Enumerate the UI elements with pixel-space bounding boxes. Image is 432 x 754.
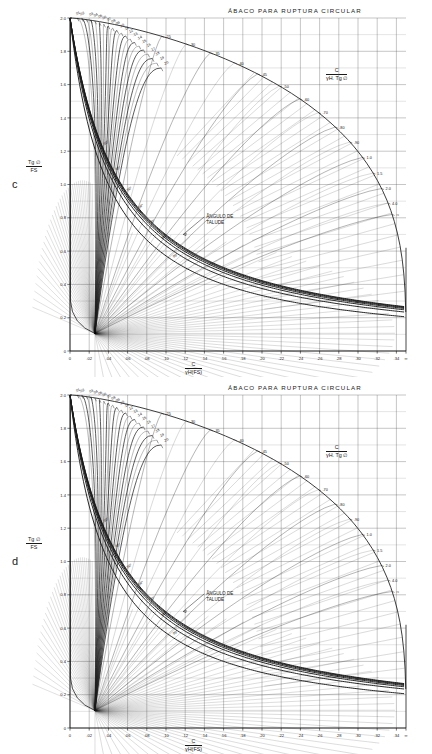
svg-text:0.2: 0.2: [60, 692, 66, 697]
svg-text:.25: .25: [166, 412, 171, 416]
svg-text:0: 0: [64, 726, 67, 731]
svg-text:.14: .14: [202, 733, 208, 738]
svg-text:.32: .32: [374, 733, 380, 738]
svg-text:.10: .10: [163, 356, 169, 361]
svg-text:.80: .80: [339, 126, 344, 130]
svg-text:.25: .25: [166, 35, 171, 39]
svg-text:.02: .02: [79, 11, 85, 17]
svg-text:∞: ∞: [405, 356, 408, 361]
svg-text:.18: .18: [240, 356, 246, 361]
svg-text:.26: .26: [317, 356, 323, 361]
svg-text:0.8: 0.8: [60, 592, 66, 597]
svg-text:.45: .45: [262, 73, 267, 77]
svg-text:1.8: 1.8: [60, 426, 66, 431]
svg-text:2.0: 2.0: [60, 393, 66, 398]
svg-text:.40: .40: [238, 62, 243, 66]
svg-text:1.5: 1.5: [377, 172, 382, 176]
svg-text:TALUDE: TALUDE: [206, 220, 224, 225]
svg-text:.02: .02: [86, 733, 92, 738]
document-page: c ÁBACO PARA RUPTURA CIRCULAR Tg ∅ FS C …: [0, 0, 432, 754]
svg-text:0.2: 0.2: [60, 315, 66, 320]
svg-text:.35: .35: [214, 429, 219, 433]
svg-text:1.0: 1.0: [60, 182, 66, 187]
svg-text:4.0: 4.0: [392, 579, 397, 583]
svg-text:ÂNGULO DE: ÂNGULO DE: [206, 213, 233, 219]
svg-text:.06: .06: [125, 733, 131, 738]
svg-text:.70: .70: [323, 111, 328, 115]
svg-text:.60: .60: [304, 475, 309, 479]
nomograph-svg-d: .01.02.03.04.05.06.07.08.09.10.11.12.13.…: [0, 377, 432, 754]
svg-text:1.4: 1.4: [60, 493, 66, 498]
svg-text:.24: .24: [298, 356, 304, 361]
svg-text:.02: .02: [79, 388, 85, 394]
svg-text:.80: .80: [339, 503, 344, 507]
svg-text:.28: .28: [336, 733, 342, 738]
svg-text:.19: .19: [158, 433, 164, 439]
svg-text:50°: 50°: [126, 186, 133, 193]
svg-text:.04: .04: [106, 733, 112, 738]
svg-text:.26: .26: [317, 733, 323, 738]
svg-text:1.0: 1.0: [367, 156, 372, 160]
svg-text:.60: .60: [304, 98, 309, 102]
svg-text:.12: .12: [182, 356, 188, 361]
svg-text:50°: 50°: [126, 563, 133, 570]
svg-text:1.2: 1.2: [60, 149, 66, 154]
svg-text:∞: ∞: [396, 213, 399, 217]
svg-text:1.2: 1.2: [60, 526, 66, 531]
svg-text:.20: .20: [259, 356, 265, 361]
svg-text:.35: .35: [214, 52, 219, 56]
svg-text:.20: .20: [259, 733, 265, 738]
svg-text:.22: .22: [278, 356, 284, 361]
svg-text:2.0: 2.0: [386, 564, 391, 568]
svg-text:1.6: 1.6: [60, 82, 66, 87]
svg-text:.32: .32: [374, 356, 380, 361]
svg-text:.34: .34: [394, 356, 400, 361]
svg-text:.16: .16: [221, 733, 227, 738]
svg-text:ÂNGULO DE: ÂNGULO DE: [206, 590, 233, 596]
svg-text:1.4: 1.4: [60, 116, 66, 121]
svg-text:.06: .06: [125, 356, 131, 361]
svg-text:.02: .02: [86, 356, 92, 361]
svg-text:0: 0: [69, 356, 72, 361]
svg-text:TALUDE: TALUDE: [206, 597, 224, 602]
svg-text:.28: .28: [336, 356, 342, 361]
svg-text:0.8: 0.8: [60, 215, 66, 220]
chart-panel-d: d ÁBACO PARA RUPTURA CIRCULAR Tg ∅ FS C …: [0, 377, 432, 754]
svg-text:.24: .24: [298, 733, 304, 738]
svg-text:.70: .70: [323, 488, 328, 492]
svg-text:.30: .30: [355, 356, 361, 361]
svg-text:.04: .04: [106, 356, 112, 361]
svg-text:.10: .10: [163, 733, 169, 738]
chart-panel-c: c ÁBACO PARA RUPTURA CIRCULAR Tg ∅ FS C …: [0, 0, 432, 377]
svg-text:2.0: 2.0: [60, 16, 66, 21]
svg-text:.30: .30: [190, 420, 195, 424]
svg-text:.30: .30: [190, 43, 195, 47]
svg-text:1.0: 1.0: [60, 559, 66, 564]
svg-text:1.5: 1.5: [377, 549, 382, 553]
svg-text:.50: .50: [284, 85, 289, 89]
svg-text:0.6: 0.6: [60, 626, 66, 631]
svg-text:1.0: 1.0: [367, 533, 372, 537]
svg-text:4.0: 4.0: [392, 202, 397, 206]
svg-text:0: 0: [64, 349, 67, 354]
svg-text:0: 0: [69, 733, 72, 738]
svg-text:.40: .40: [238, 439, 243, 443]
svg-text:∞: ∞: [396, 590, 399, 594]
svg-text:.16: .16: [221, 356, 227, 361]
svg-text:1.8: 1.8: [60, 49, 66, 54]
svg-text:0.4: 0.4: [60, 659, 66, 664]
svg-text:.22: .22: [278, 733, 284, 738]
svg-text:.45: .45: [262, 450, 267, 454]
svg-text:.20: .20: [163, 437, 169, 443]
svg-text:2.0: 2.0: [386, 187, 391, 191]
svg-text:.12: .12: [182, 733, 188, 738]
svg-text:.08: .08: [144, 356, 150, 361]
svg-text:0.6: 0.6: [60, 249, 66, 254]
svg-text:.30: .30: [355, 733, 361, 738]
svg-text:.19: .19: [158, 56, 164, 62]
svg-text:.14: .14: [202, 356, 208, 361]
svg-text:.90: .90: [354, 141, 359, 145]
svg-text:.08: .08: [144, 733, 150, 738]
svg-text:∞: ∞: [405, 733, 408, 738]
svg-text:.90: .90: [354, 518, 359, 522]
